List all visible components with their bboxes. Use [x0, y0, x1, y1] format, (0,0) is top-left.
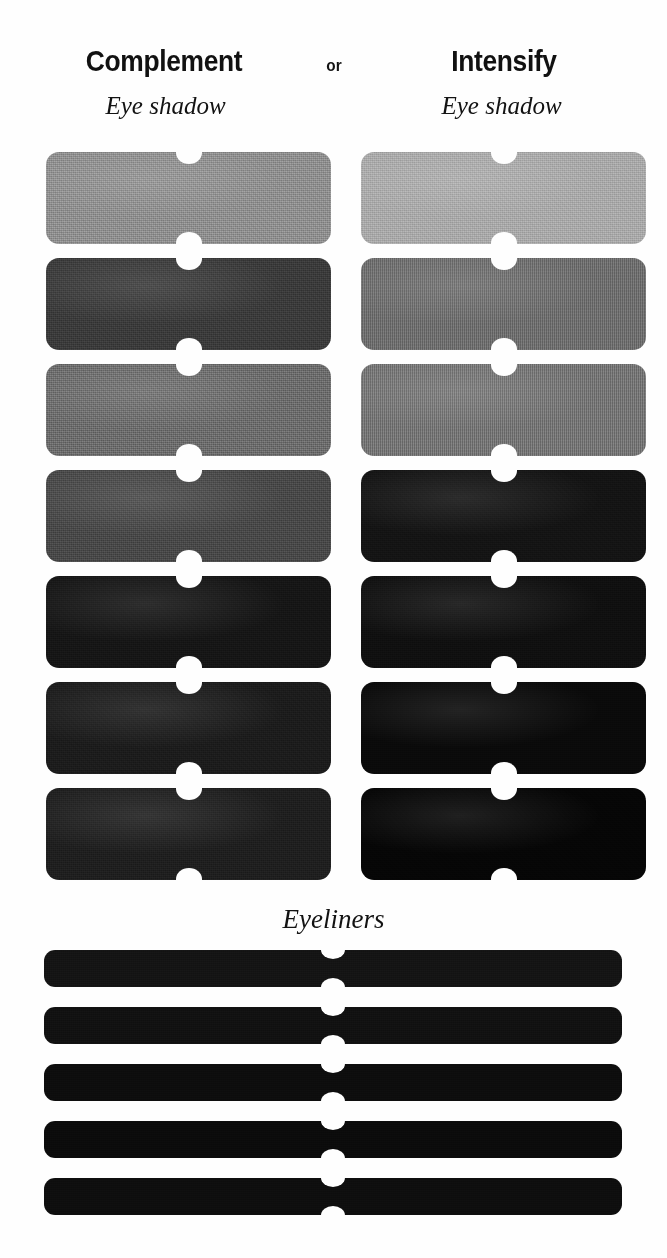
heading-conjunction-or: or [316, 56, 352, 76]
swatch-color-fill [361, 364, 646, 456]
eye-shadow-swatch-grid [0, 152, 667, 862]
heading-eyeliners: Eyeliners [0, 904, 667, 935]
eyeliner-swatch[interactable] [44, 1007, 622, 1044]
eyeliner-swatch[interactable] [44, 1064, 622, 1101]
eyeliner-swatch[interactable] [44, 1178, 622, 1215]
eyeliner-color-fill [44, 950, 622, 987]
swatch-color-fill [361, 682, 646, 774]
eye-shadow-swatch[interactable] [361, 258, 646, 350]
eye-shadow-swatch[interactable] [361, 788, 646, 880]
eyeliner-swatch[interactable] [44, 950, 622, 987]
swatch-color-fill [361, 470, 646, 562]
eye-shadow-swatch[interactable] [46, 682, 331, 774]
eye-shadow-swatch[interactable] [361, 470, 646, 562]
palette-page: Complement or Intensify Eye shadow Eye s… [0, 0, 667, 1258]
swatch-color-fill [361, 152, 646, 244]
swatch-color-fill [46, 470, 331, 562]
column-headings: Complement or Intensify [0, 44, 667, 94]
subheading-eye-shadow-intensify: Eye shadow [342, 92, 662, 132]
swatch-color-fill [46, 364, 331, 456]
eye-shadow-swatch[interactable] [46, 364, 331, 456]
subheading-eye-shadow-complement: Eye shadow [6, 92, 326, 132]
heading-complement: Complement [32, 44, 296, 78]
eye-shadow-swatch[interactable] [46, 576, 331, 668]
heading-intensify: Intensify [372, 44, 636, 78]
swatch-color-fill [46, 258, 331, 350]
eye-shadow-swatch[interactable] [46, 470, 331, 562]
eye-shadow-swatch[interactable] [361, 364, 646, 456]
eyeliner-color-fill [44, 1064, 622, 1101]
eyeliner-swatch[interactable] [44, 1121, 622, 1158]
eyeliner-color-fill [44, 1178, 622, 1215]
eye-shadow-swatch[interactable] [46, 788, 331, 880]
eye-shadow-swatch[interactable] [46, 152, 331, 244]
swatch-color-fill [46, 576, 331, 668]
swatch-color-fill [46, 682, 331, 774]
swatch-color-fill [361, 258, 646, 350]
swatch-color-fill [361, 576, 646, 668]
swatch-column-intensify [361, 152, 646, 862]
swatch-color-fill [361, 788, 646, 880]
eye-shadow-swatch[interactable] [361, 576, 646, 668]
column-subheadings: Eye shadow Eye shadow [0, 92, 667, 132]
eye-shadow-swatch[interactable] [361, 152, 646, 244]
eye-shadow-swatch[interactable] [46, 258, 331, 350]
eyeliner-color-fill [44, 1121, 622, 1158]
eyeliner-color-fill [44, 1007, 622, 1044]
eye-shadow-swatch[interactable] [361, 682, 646, 774]
swatch-color-fill [46, 152, 331, 244]
eyeliner-swatch-stack [44, 950, 622, 1240]
swatch-column-complement [46, 152, 331, 862]
swatch-color-fill [46, 788, 331, 880]
